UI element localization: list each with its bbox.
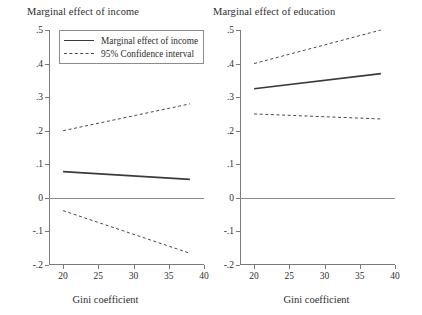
x-axis-tick-mark bbox=[98, 265, 99, 269]
y-axis-tick-mark bbox=[45, 265, 49, 266]
y-axis-tick-mark bbox=[236, 131, 240, 132]
series-line bbox=[254, 30, 381, 64]
panel-title: Marginal effect of education bbox=[213, 6, 335, 17]
x-axis-tick-mark bbox=[254, 265, 255, 269]
x-axis-tick-mark bbox=[360, 265, 361, 269]
series-lines bbox=[240, 30, 395, 265]
y-axis-tick-label: .5 bbox=[206, 25, 240, 35]
legend: Marginal effect of income 95% Confidence… bbox=[59, 30, 204, 64]
y-axis-tick-label: 0 bbox=[15, 193, 49, 203]
y-axis-tick-mark bbox=[45, 97, 49, 98]
series-line bbox=[63, 211, 190, 254]
x-axis-tick-label: 20 bbox=[58, 271, 68, 281]
y-axis-tick-mark bbox=[45, 231, 49, 232]
panel-title: Marginal effect of income bbox=[27, 6, 139, 17]
series-line bbox=[63, 104, 190, 131]
y-axis-tick-mark bbox=[45, 198, 49, 199]
y-axis-tick-mark bbox=[45, 131, 49, 132]
x-axis-tick-mark bbox=[325, 265, 326, 269]
x-axis-tick-mark bbox=[63, 265, 64, 269]
x-axis-tick-label: 25 bbox=[94, 271, 104, 281]
x-axis-tick-label: 40 bbox=[199, 271, 209, 281]
y-axis-tick-mark bbox=[45, 64, 49, 65]
legend-key-dashed-line-icon bbox=[64, 53, 94, 54]
y-axis-tick-mark bbox=[45, 30, 49, 31]
y-axis-tick-label: .5 bbox=[15, 25, 49, 35]
y-axis-tick-label: .2 bbox=[15, 126, 49, 136]
series-line bbox=[63, 172, 190, 180]
y-axis-tick-label: .1 bbox=[15, 159, 49, 169]
y-axis-tick-label: .3 bbox=[15, 92, 49, 102]
x-axis-label: Gini coefficient bbox=[0, 294, 211, 305]
y-axis-tick-mark bbox=[236, 64, 240, 65]
x-axis-tick-label: 25 bbox=[285, 271, 295, 281]
figure-root: Marginal effect of income Marginal effec… bbox=[0, 0, 422, 315]
plot-area: Marginal effect of income 95% Confidence… bbox=[49, 30, 204, 265]
y-axis-tick-mark bbox=[236, 30, 240, 31]
y-axis-tick-label: -.2 bbox=[206, 260, 240, 270]
y-axis-tick-label: -.1 bbox=[206, 226, 240, 236]
series-line bbox=[254, 114, 381, 119]
legend-entry-confidence-interval: 95% Confidence interval bbox=[64, 47, 198, 60]
x-axis-tick-label: 20 bbox=[249, 271, 259, 281]
x-axis-label: Gini coefficient bbox=[211, 294, 422, 305]
x-axis-tick-mark bbox=[134, 265, 135, 269]
x-axis-tick-mark bbox=[395, 265, 396, 269]
y-axis-tick-mark bbox=[236, 164, 240, 165]
y-axis-tick-label: .3 bbox=[206, 92, 240, 102]
x-axis-tick-label: 30 bbox=[129, 271, 139, 281]
x-axis-tick-label: 40 bbox=[390, 271, 400, 281]
legend-label: 95% Confidence interval bbox=[101, 49, 194, 59]
y-axis-tick-mark bbox=[236, 231, 240, 232]
x-axis-tick-label: 35 bbox=[355, 271, 365, 281]
x-axis-tick-mark bbox=[169, 265, 170, 269]
y-axis-tick-label: -.1 bbox=[15, 226, 49, 236]
y-axis-tick-label: .4 bbox=[15, 59, 49, 69]
y-axis-tick-mark bbox=[236, 265, 240, 266]
y-axis-tick-mark bbox=[236, 198, 240, 199]
y-axis-tick-mark bbox=[45, 164, 49, 165]
y-axis-tick-label: .4 bbox=[206, 59, 240, 69]
panel-marginal-effect-of-education: Marginal effect of education -.2-.10.1.2… bbox=[211, 0, 422, 315]
y-axis-tick-label: 0 bbox=[206, 193, 240, 203]
x-axis-tick-mark bbox=[289, 265, 290, 269]
panel-marginal-effect-of-income: Marginal effect of income Marginal effec… bbox=[0, 0, 211, 315]
plot-area: -.2-.10.1.2.3.4.52025303540 bbox=[240, 30, 395, 265]
y-axis-tick-label: .1 bbox=[206, 159, 240, 169]
series-line bbox=[254, 74, 381, 89]
x-axis-tick-label: 35 bbox=[164, 271, 174, 281]
legend-key-solid-line-icon bbox=[64, 40, 94, 42]
y-axis-tick-label: .2 bbox=[206, 126, 240, 136]
y-axis-tick-label: -.2 bbox=[15, 260, 49, 270]
y-axis-tick-mark bbox=[236, 97, 240, 98]
legend-entry-marginal-effect: Marginal effect of income bbox=[64, 34, 198, 47]
legend-label: Marginal effect of income bbox=[101, 36, 198, 46]
x-axis-tick-label: 30 bbox=[320, 271, 330, 281]
series-lines bbox=[49, 30, 204, 265]
x-axis-tick-mark bbox=[204, 265, 205, 269]
